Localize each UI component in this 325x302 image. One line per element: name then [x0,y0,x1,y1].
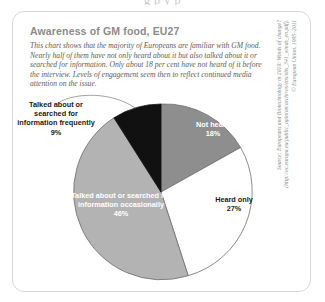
pie-label-frequently-name: Talked about or searched for information… [17,100,94,127]
pie-chart: Not heard 18% Heard only 27% Talked abou… [13,94,310,292]
pie-label-heard-only-name: Heard only [215,195,253,204]
chart-card: Awareness of GM food, EU27 This chart sh… [12,11,311,292]
pie-label-not-heard-name: Not heard [196,120,230,129]
pie-label-heard-only-pct: 27% [194,204,274,213]
pie-label-occasionally-name: Talked about or searched for information… [71,191,171,209]
pie-label-heard-only: Heard only 27% [194,195,274,213]
page-top-bleed-text: g p y p [0,0,325,5]
page-title: Awareness of GM food, EU27 [30,25,180,37]
pie-label-frequently: Talked about or searched for information… [17,100,95,137]
chart-description: This chart shows that the majority of Eu… [30,41,268,89]
pie-label-not-heard-pct: 18% [173,129,253,138]
pie-label-not-heard: Not heard 18% [173,120,253,138]
pie-label-occasionally-pct: 46% [55,209,187,218]
pie-label-occasionally: Talked about or searched for information… [55,191,187,219]
pie-label-frequently-pct: 9% [17,128,95,137]
